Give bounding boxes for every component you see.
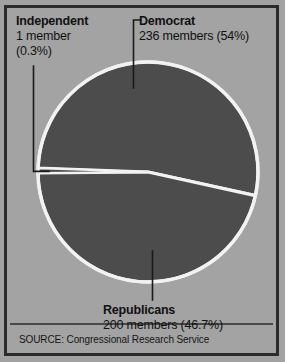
label-democrat: Democrat 236 members (54%) — [139, 14, 249, 44]
label-independent-title: Independent — [16, 14, 88, 29]
label-republicans-title: Republicans — [103, 303, 223, 318]
label-independent-percent: (0.3%) — [16, 44, 88, 59]
source-note: SOURCE: Congressional Research Service — [19, 334, 209, 345]
pie-chart-figure: Independent 1 member (0.3%) Democrat 236… — [0, 0, 285, 362]
label-republicans: Republicans 200 members (46.7%) — [103, 303, 223, 333]
label-republicans-detail: 200 members (46.7%) — [103, 318, 223, 333]
label-independent: Independent 1 member (0.3%) — [16, 14, 88, 58]
pie-slices — [38, 62, 258, 282]
pie-slice-republicans[interactable] — [38, 172, 255, 282]
label-democrat-detail: 236 members (54%) — [139, 29, 249, 44]
label-independent-count: 1 member — [16, 29, 88, 44]
label-democrat-title: Democrat — [139, 14, 249, 29]
